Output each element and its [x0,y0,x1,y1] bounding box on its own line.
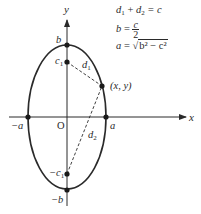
distance-d2-line [67,86,102,174]
point-neg-a [25,114,30,119]
diagram-canvas: y x O b c1 d1 (x, y) −a a d2 −c1 −b [0,0,201,214]
label-neg-a: −a [11,120,23,131]
label-neg-c1: −c1 [49,167,65,180]
sqrt-radicand: b² − c² [138,39,167,51]
point-c1 [64,59,69,64]
point-xy [99,83,104,88]
x-axis-label: x [188,111,194,123]
point-neg-c1 [64,171,69,176]
equation-b: b = c2 [116,20,168,40]
fraction-c-over-2: c2 [132,20,138,39]
origin-label: O [57,120,65,131]
point-a [103,114,108,119]
ellipse-diagram: y x O b c1 d1 (x, y) −a a d2 −c1 −b d1 +… [0,0,201,214]
label-b: b [56,34,61,45]
label-neg-b: −b [51,194,63,205]
label-point-xy: (x, y) [110,80,132,92]
equation-a: a = √b² − c² [116,40,168,53]
label-d2: d2 [88,129,97,142]
equations-block: d1 + d2 = c b = c2 a = √b² − c² [116,0,168,53]
equation-sum-distances: d1 + d2 = c [116,0,168,17]
label-c1: c1 [55,55,64,68]
point-neg-b [64,187,69,192]
point-b [64,42,69,47]
y-axis-label: y [63,3,69,15]
label-a: a [110,120,115,131]
label-d1: d1 [82,59,91,72]
